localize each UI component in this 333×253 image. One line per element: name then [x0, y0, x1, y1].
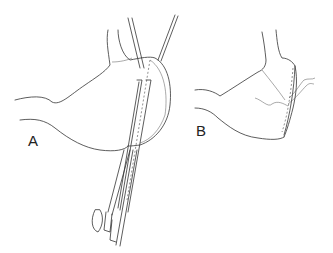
illustration [0, 0, 333, 253]
panel-label-a: A [28, 132, 38, 149]
panel-a-stomach-drawing [15, 30, 170, 151]
panel-a-stapler-drawing [92, 15, 178, 246]
panel-b-stomach-drawing [195, 30, 315, 139]
panel-label-b: B [196, 122, 206, 139]
figure: A B [0, 0, 333, 253]
